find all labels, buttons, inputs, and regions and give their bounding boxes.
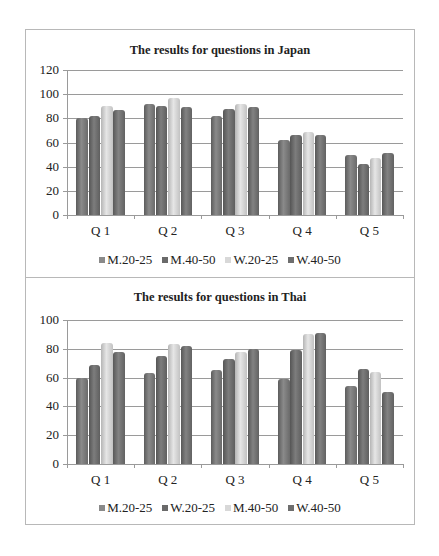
bar [168,344,180,464]
chart-title: The results for questions in Japan [26,43,414,58]
bar [358,369,370,464]
gridline [67,94,403,95]
bar [223,359,235,464]
gridline [67,215,403,216]
bar [303,132,315,215]
japan-chart: The results for questions in Japan M.20-… [26,30,414,278]
bar [181,107,193,215]
x-tick-mark [336,464,337,468]
bar [101,106,113,215]
legend-swatch-icon [99,505,105,511]
y-tick-label: 20 [29,428,59,442]
x-tick-label: Q 2 [134,472,201,488]
legend-label: W.20-25 [233,252,278,267]
gridline [67,464,403,465]
x-tick-mark [403,464,404,468]
legend-swatch-icon [225,257,231,263]
x-tick-mark [134,464,135,468]
y-tick-label: 20 [29,184,59,198]
x-tick-label: Q 1 [67,223,134,239]
bar [370,158,382,215]
y-tick-label: 40 [29,399,59,413]
legend-label: M.20-25 [107,252,152,267]
bar [345,386,357,464]
x-tick-mark [67,215,68,219]
legend-label: M.40-50 [170,252,215,267]
x-tick-mark [403,215,404,219]
bar [76,378,88,464]
bar [248,349,260,464]
bar [211,116,223,215]
thai-chart: The results for questions in Thai M.20-2… [26,278,414,524]
x-tick-label: Q 4 [269,223,336,239]
legend-swatch-icon [288,505,294,511]
legend-item: W.20-25 [225,252,278,268]
legend: M.20-25W.20-25M.40-50W.40-50 [26,500,414,516]
x-tick-label: Q 2 [134,223,201,239]
legend: M.20-25M.40-50W.20-25W.40-50 [26,252,414,268]
bar [181,346,193,464]
x-tick-label: Q 4 [269,472,336,488]
gridline [67,70,403,71]
y-tick-label: 60 [29,371,59,385]
bar [315,333,327,464]
x-tick-label: Q 5 [336,223,403,239]
x-tick-mark [67,464,68,468]
y-tick-label: 80 [29,342,59,356]
bar [113,352,125,464]
bar [315,135,327,215]
bar [144,104,156,215]
legend-swatch-icon [225,505,231,511]
y-tick-label: 120 [29,63,59,77]
legend-item: W.20-25 [162,500,215,516]
y-tick-label: 0 [29,208,59,222]
bar [89,365,101,464]
bar [370,372,382,464]
y-tick-label: 0 [29,457,59,471]
legend-swatch-icon [99,257,105,263]
legend-label: M.20-25 [107,500,152,515]
x-tick-mark [269,464,270,468]
x-tick-mark [201,464,202,468]
legend-swatch-icon [162,257,168,263]
bar [303,334,315,464]
bar [248,107,260,215]
bar [382,153,394,215]
bar [76,118,88,215]
bar [278,379,290,464]
bar [223,109,235,215]
y-axis [67,70,68,215]
legend-label: W.20-25 [170,500,215,515]
legend-item: M.20-25 [99,252,152,268]
x-tick-mark [336,215,337,219]
bar [358,164,370,215]
plot-area [67,320,403,464]
gridline [67,349,403,350]
x-tick-mark [134,215,135,219]
bar [278,140,290,215]
y-tick-label: 80 [29,111,59,125]
bar [156,106,168,215]
y-tick-label: 40 [29,160,59,174]
bar [290,350,302,464]
legend-item: M.20-25 [99,500,152,516]
y-tick-label: 100 [29,87,59,101]
x-tick-label: Q 3 [201,472,268,488]
y-axis [67,320,68,464]
bar [144,373,156,464]
figure-frame: The results for questions in Japan M.20-… [25,29,415,525]
x-tick-mark [269,215,270,219]
y-tick-label: 60 [29,136,59,150]
legend-swatch-icon [288,257,294,263]
x-tick-mark [201,215,202,219]
x-tick-label: Q 3 [201,223,268,239]
legend-label: M.40-50 [233,500,278,515]
legend-item: W.40-50 [288,500,341,516]
gridline [67,320,403,321]
bar [113,110,125,215]
legend-label: W.40-50 [296,252,341,267]
legend-item: W.40-50 [288,252,341,268]
bar [235,352,247,464]
bar [382,392,394,464]
bar [101,343,113,464]
